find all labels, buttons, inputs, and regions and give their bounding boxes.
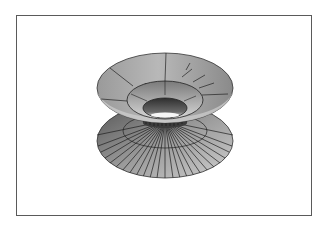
- inner-hole: [143, 98, 187, 118]
- surface-plot: [0, 0, 330, 227]
